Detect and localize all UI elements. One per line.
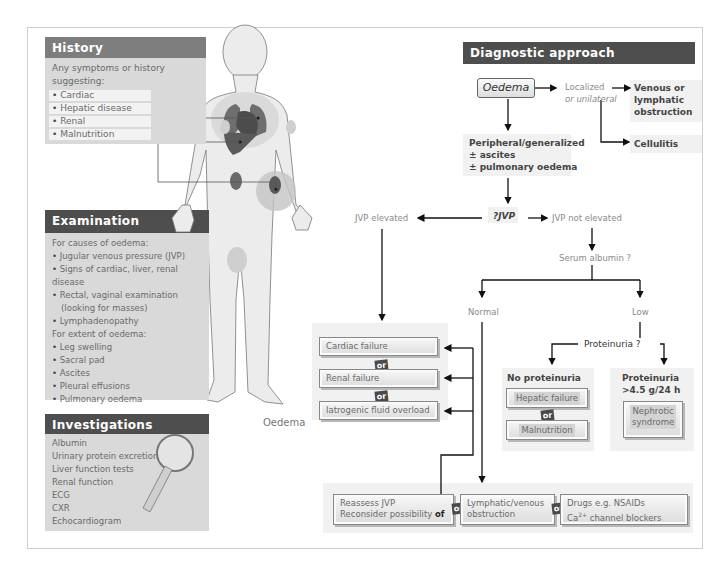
nephrotic-syndrome-box: Nephrotic syndrome <box>623 401 683 438</box>
normal-label: Normal <box>468 307 499 317</box>
no-proteinuria-label: No proteinuria <box>507 372 581 384</box>
proteinuria-high-label: Proteinuria >4.5 g/24 h <box>622 372 680 396</box>
low-label: Low <box>632 307 649 317</box>
generalized-node: Peripheral/generalized ± ascites ± pulmo… <box>469 137 585 173</box>
localized-label: Localized or unilateral <box>565 81 617 105</box>
drugs-box: Drugs e.g. NSAIDs Ca2+ channel blockers <box>560 494 688 525</box>
oedema-start-node: Oedema <box>477 78 535 98</box>
jvp-elevated-label: JVP elevated <box>355 213 408 223</box>
hepatic-failure-box: Hepatic failure <box>506 388 588 408</box>
venous-obstruction-node: Venous or lymphatic obstruction <box>634 82 692 118</box>
cardiac-failure-box: Cardiac failure <box>319 337 438 356</box>
flowchart-connectors <box>0 0 727 569</box>
cellulitis-node: Cellulitis <box>634 138 678 150</box>
serum-albumin-label: Serum albumin ? <box>559 253 631 263</box>
lymphatic-venous-box: Lymphatic/venous obstruction <box>460 494 555 525</box>
renal-failure-box: Renal failure <box>319 369 438 388</box>
reassess-jvp-box: Reassess JVP Reconsider possibility of <box>333 494 454 525</box>
malnutrition-box: Malnutrition <box>506 420 588 440</box>
proteinuria-question: Proteinuria ? <box>584 338 641 350</box>
jvp-not-elevated-label: JVP not elevated <box>552 213 622 223</box>
jvp-question-node: ?JVP <box>493 210 515 222</box>
iatrogenic-box: Iatrogenic fluid overload <box>319 401 438 420</box>
